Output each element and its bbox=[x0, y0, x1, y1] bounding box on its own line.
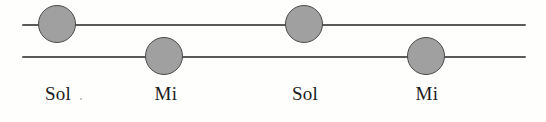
note-label-mi-1: Mi bbox=[116, 84, 216, 103]
note-head-mi-1[interactable] bbox=[145, 37, 183, 75]
upper-staff-line bbox=[22, 24, 526, 26]
note-label-mi-2: Mi bbox=[377, 84, 477, 103]
lower-staff-line bbox=[22, 56, 526, 58]
note-label-sol-2: Sol bbox=[255, 84, 355, 103]
music-notation-figure: Sol Mi Sol Mi bbox=[0, 0, 546, 122]
note-head-sol-1[interactable] bbox=[38, 5, 76, 43]
note-head-mi-2[interactable] bbox=[407, 37, 445, 75]
stray-speck bbox=[80, 98, 82, 100]
note-label-sol-1: Sol bbox=[8, 84, 108, 103]
note-head-sol-2[interactable] bbox=[285, 5, 323, 43]
